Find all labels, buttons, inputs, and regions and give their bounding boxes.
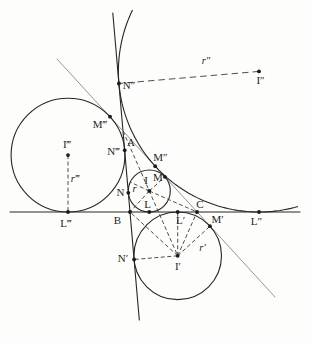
label-I: I — [144, 174, 148, 186]
label-N: N — [117, 186, 125, 198]
label-L-3prime: L‴ — [60, 217, 72, 229]
geometry-diagram: ABCIMNLrI′L′M′N′r′I″L″M″N″r″I‴L‴M‴N‴r‴ — [0, 0, 311, 344]
point-L-2prime — [257, 210, 261, 214]
figure-page: ABCIMNLrI′L′M′N′r′I″L″M″N″r″I‴L‴M‴N‴r‴ — [0, 0, 311, 344]
label-M: M — [153, 171, 163, 183]
point-N-prime — [132, 258, 136, 262]
label-L-2prime: L″ — [251, 215, 262, 227]
label-r-3prime: r‴ — [71, 173, 80, 184]
point-N-3prime — [123, 148, 127, 152]
segment-Iprime-Nprime — [134, 256, 178, 260]
point-B — [128, 210, 132, 214]
line-AB — [113, 13, 140, 320]
point-L-3prime — [66, 210, 70, 214]
label-r-prime: r′ — [199, 242, 206, 253]
label-N-2prime: N″ — [123, 79, 136, 91]
point-N — [126, 191, 130, 195]
point-N-2prime — [117, 82, 121, 86]
label-I-2prime: I″ — [256, 74, 264, 86]
point-C — [195, 210, 199, 214]
label-M-3prime: M‴ — [93, 118, 108, 130]
label-L-prime: L′ — [176, 214, 185, 226]
label-r-2prime: r″ — [202, 55, 211, 66]
label-M-prime: M′ — [211, 213, 223, 225]
radius-r-2prime — [119, 71, 259, 83]
label-C: C — [196, 198, 203, 210]
point-M-3prime — [108, 115, 112, 119]
label-B: B — [114, 214, 121, 226]
label-N-3prime: N‴ — [107, 145, 120, 157]
bisector-A-I-Iprime — [123, 131, 178, 256]
point-I-3prime — [66, 153, 70, 157]
label-L: L — [144, 198, 151, 210]
point-L — [147, 210, 151, 214]
label-A: A — [127, 136, 135, 148]
point-I-2prime — [257, 70, 261, 74]
point-M — [163, 175, 167, 179]
label-I-prime: I′ — [175, 260, 181, 272]
point-I — [147, 189, 151, 193]
label-r: r — [132, 183, 137, 194]
label-M-2prime: M″ — [153, 151, 167, 163]
point-I-prime — [176, 254, 180, 258]
label-N-prime: N′ — [118, 252, 128, 264]
point-M-2prime — [153, 164, 157, 168]
label-I-3prime: I‴ — [63, 138, 72, 150]
